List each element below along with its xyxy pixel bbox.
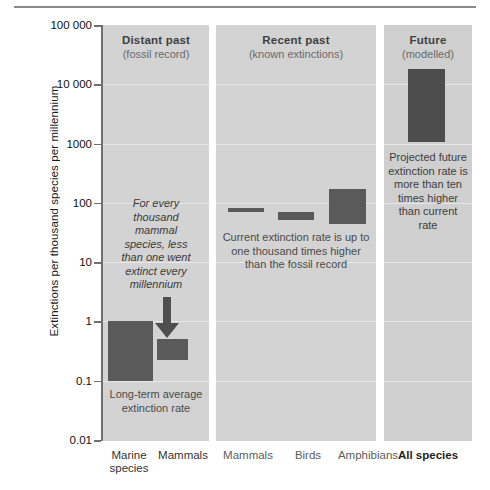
panel2-gridline-0.1	[216, 381, 376, 382]
panel3-gridline-10	[384, 262, 472, 263]
panel2-gridline-1	[216, 321, 376, 322]
panel3-title: Future	[384, 34, 472, 46]
y-tick-100	[94, 203, 101, 205]
y-tick-0.1	[94, 381, 101, 383]
y-ticklabel-100000: 100 000	[50, 19, 92, 31]
y-tick-100000	[94, 25, 101, 27]
bar-marine-species	[108, 321, 153, 380]
bar-mammals-fossil	[157, 339, 188, 360]
xlabel-all-species: All species	[384, 449, 472, 462]
bar-amphibians-recent	[329, 189, 366, 225]
bar-birds-recent	[278, 212, 314, 220]
y-ticklabel-1000: 1000	[66, 138, 92, 150]
y-ticklabel-10000: 10 000	[57, 78, 92, 90]
panel1-italic-note: For every thousand mammal species, less …	[107, 197, 205, 292]
xlabel-mammals-recent: Mammals	[216, 449, 280, 462]
panel-recent-past: Recent past (known extinctions) Current …	[216, 25, 376, 441]
y-ticklabel-1: 1	[86, 315, 92, 327]
y-ticklabel-10: 10	[79, 256, 92, 268]
panel3-bottom-note: Projected future extinction rate is more…	[382, 151, 474, 232]
xlabel-marine-species: Marine species	[104, 449, 154, 475]
y-axis-label: Extinctions per thousand species per mil…	[48, 61, 60, 361]
down-arrow-icon	[153, 297, 181, 343]
panel3-gridline-1	[384, 321, 472, 322]
panel1-bottom-note: Long-term average extinction rate	[99, 388, 213, 415]
bar-mammals-recent	[228, 208, 264, 212]
panel1-subtitle: (fossil record)	[103, 48, 209, 60]
panel2-gridline-10000	[216, 84, 376, 85]
panel1-gridline-10000	[103, 84, 209, 85]
y-ticklabel-0.01: 0.01	[70, 434, 92, 446]
panel2-subtitle: (known extinctions)	[216, 48, 376, 60]
header-rule	[14, 6, 476, 8]
xlabel-birds-recent: Birds	[285, 449, 331, 462]
panel3-subtitle: (modelled)	[384, 48, 472, 60]
y-tick-1000	[94, 144, 101, 146]
panel2-bottom-note: Current extinction rate is up to one tho…	[204, 231, 388, 272]
y-tick-10	[94, 262, 101, 264]
panel2-title: Recent past	[216, 34, 376, 46]
panel2-gridline-1000	[216, 144, 376, 145]
panel3-gridline-1000	[384, 144, 472, 145]
panel1-gridline-1000	[103, 144, 209, 145]
panel-future: Future (modelled) Projected future extin…	[384, 25, 472, 441]
panel3-gridline-0.1	[384, 381, 472, 382]
panel-distant-past: Distant past (fossil record) For every t…	[103, 25, 209, 441]
y-tick-10000	[94, 84, 101, 86]
y-ticklabel-0.1: 0.1	[76, 375, 92, 387]
y-tick-0.01	[94, 440, 101, 442]
panel1-gridline-0.1	[103, 381, 209, 382]
bar-all-species-future	[408, 69, 445, 142]
extinction-rate-chart: Extinctions per thousand species per mil…	[0, 0, 490, 490]
panel1-title: Distant past	[103, 34, 209, 46]
xlabel-mammals-fossil: Mammals	[152, 449, 214, 462]
y-ticklabel-100: 100	[73, 197, 92, 209]
y-tick-1	[94, 321, 101, 323]
